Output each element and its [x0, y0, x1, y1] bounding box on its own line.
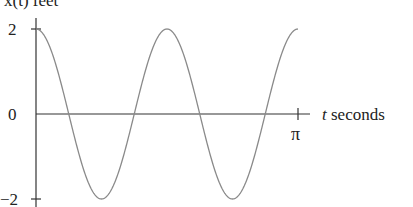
y-tick-label-0: 0 — [8, 105, 17, 124]
x-axis-title: t seconds — [322, 105, 385, 124]
y-tick-label-2: 2 — [8, 20, 17, 39]
y-axis-title: x(t) feet — [4, 0, 59, 10]
chart-canvas: x(t) feet 2 0 −2 π t seconds — [0, 0, 413, 207]
x-axis-title-unit: seconds — [327, 105, 385, 124]
y-tick-label-minus-2: −2 — [0, 190, 18, 207]
x-tick-label-pi: π — [291, 124, 300, 144]
